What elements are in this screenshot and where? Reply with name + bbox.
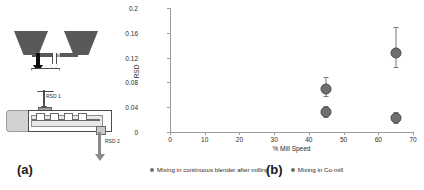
legend-label: Mixing in Co-mill	[298, 166, 343, 173]
x-tick-mark	[170, 132, 171, 135]
y-tick-label: 0.16	[98, 29, 138, 36]
blender-blade	[36, 113, 45, 121]
y-tick-label: 0.2	[98, 5, 138, 12]
x-tick-mark	[239, 132, 240, 135]
blender-blade	[78, 113, 87, 121]
y-tick-mark	[167, 82, 170, 83]
blender-blade	[64, 113, 73, 121]
rsd2-label: RSD 2	[105, 138, 120, 144]
x-tick-label: 10	[195, 136, 215, 143]
x-tick-mark	[378, 132, 379, 135]
y-tick-mark	[167, 33, 170, 34]
y-tick-label: 0.08	[98, 79, 138, 86]
legend-item[interactable]: Mixing in continuous blender after milli…	[150, 166, 269, 173]
x-tick-mark	[205, 132, 206, 135]
y-tick-label: 0.12	[98, 54, 138, 61]
y-tick-mark	[167, 107, 170, 108]
x-tick-mark	[344, 132, 345, 135]
x-tick-label: 40	[299, 136, 319, 143]
error-bar-cap	[324, 96, 329, 97]
x-tick-label: 30	[264, 136, 284, 143]
y-tick-mark	[167, 58, 170, 59]
panel-b-label: (b)	[266, 162, 283, 177]
y-axis-line	[170, 8, 171, 133]
x-tick-mark	[309, 132, 310, 135]
powder-feed-arrow-icon	[36, 53, 40, 65]
panel-b-chart: RSD % Mill Speed 00.040.080.120.160.2 01…	[130, 0, 424, 190]
x-tick-mark	[274, 132, 275, 135]
hopper-right-icon	[64, 31, 98, 55]
hopper-right-neck	[60, 53, 78, 57]
legend-label: Mixing in continuous blender after milli…	[157, 166, 269, 173]
chart-legend: Mixing in continuous blender after milli…	[150, 166, 420, 173]
x-tick-label: 20	[229, 136, 249, 143]
figure-root: air RSD 1 RSD 2 (a) RSD % Mill Speed 00.…	[0, 0, 424, 190]
x-axis-title: % Mill Speed	[170, 145, 413, 152]
co-mill-icon	[31, 68, 60, 92]
y-tick-label: 0	[98, 129, 138, 136]
error-bar-cap	[393, 27, 398, 28]
data-point	[321, 83, 332, 94]
x-tick-label: 50	[334, 136, 354, 143]
y-tick-label: 0.04	[98, 104, 138, 111]
x-tick-label: 0	[160, 136, 180, 143]
rsd1-arrow-icon	[43, 90, 45, 106]
error-bar-cap	[324, 77, 329, 78]
x-tick-label: 70	[403, 136, 423, 143]
x-tick-mark	[413, 132, 414, 135]
y-tick-mark	[167, 8, 170, 9]
y-axis-title: RSD	[133, 65, 140, 79]
x-axis-line	[170, 132, 413, 133]
panel-a-label: (a)	[17, 162, 33, 177]
hopper-left-neck	[32, 53, 52, 57]
error-bar-cap	[393, 67, 398, 68]
data-point	[321, 107, 332, 118]
x-tick-label: 60	[368, 136, 388, 143]
data-point	[390, 113, 401, 124]
blender-blade	[50, 113, 59, 121]
data-point	[390, 47, 401, 58]
legend-marker-icon	[291, 168, 295, 172]
hopper-left-icon	[14, 31, 48, 55]
legend-item[interactable]: Mixing in Co-mill	[291, 166, 343, 173]
rsd1-label: RSD 1	[46, 93, 61, 99]
air-label: air	[56, 53, 61, 58]
legend-marker-icon	[150, 168, 154, 172]
